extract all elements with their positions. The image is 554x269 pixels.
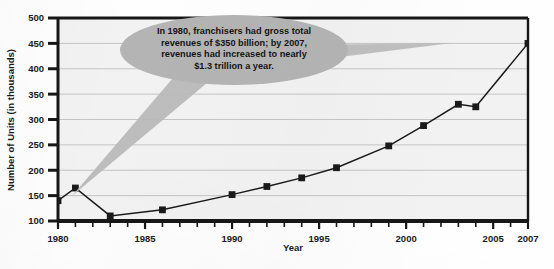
- data-point-marker: [107, 213, 114, 220]
- y-axis-tick-label: 100: [28, 215, 44, 226]
- data-point-marker: [472, 103, 479, 110]
- x-axis-tick-label: 2005: [483, 233, 505, 244]
- data-point-marker: [333, 164, 340, 171]
- data-point-marker: [525, 40, 532, 47]
- data-point-marker: [55, 197, 62, 204]
- y-axis-tick-label: 400: [28, 63, 44, 74]
- callout-text-line: revenues had increased to nearly: [161, 49, 307, 59]
- y-axis-tick-label: 450: [28, 38, 44, 49]
- x-axis-tick-label: 1985: [134, 233, 156, 244]
- callout-text-line: In 1980, franchisers had gross total: [157, 26, 311, 36]
- y-axis-tick-label: 500: [28, 12, 44, 23]
- callout-text-line: revenues of $350 billion; by 2007,: [161, 38, 307, 48]
- x-axis-tick-label: 1980: [47, 233, 68, 244]
- y-axis-tick-label: 300: [28, 114, 44, 125]
- y-axis-title: Number of Units (in thousands): [5, 49, 16, 191]
- x-axis-tick-label: 2007: [517, 233, 538, 244]
- x-axis-title: Year: [283, 242, 303, 253]
- data-point-marker: [229, 191, 236, 198]
- x-axis-tick-label: 1995: [309, 233, 331, 244]
- data-point-marker: [298, 174, 305, 181]
- y-axis-tick-label: 150: [28, 190, 44, 201]
- y-axis-tick-label: 350: [28, 89, 44, 100]
- y-axis-tick-labels: 100150200250300350400450500: [28, 12, 44, 226]
- data-point-marker: [420, 122, 427, 129]
- x-axis-tick-label: 2000: [396, 233, 417, 244]
- callout-text-line: $1.3 trillion a year.: [194, 61, 274, 71]
- y-axis-tick-label: 200: [28, 165, 44, 176]
- y-axis-tick-label: 250: [28, 139, 44, 150]
- x-axis-tick-label: 1990: [222, 233, 243, 244]
- chart-figure: 100150200250300350400450500 198019851990…: [0, 0, 554, 269]
- data-point-marker: [159, 206, 166, 213]
- data-point-marker: [263, 183, 270, 190]
- data-point-marker: [455, 101, 462, 108]
- line-chart-canvas: 100150200250300350400450500 198019851990…: [0, 0, 554, 269]
- data-point-marker: [385, 142, 392, 149]
